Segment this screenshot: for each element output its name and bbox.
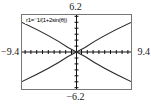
x-max-label: 9.4 [138,47,151,57]
x-min-label: −9.4 [1,47,19,57]
y-max-label: 6.2 [0,2,151,12]
graph-canvas [22,15,131,89]
equation-label: r1=⁻1/(1+2sin(θ)) [25,17,68,24]
y-min-label: −6.2 [0,92,151,102]
calculator-graph-screen: 6.2 −9.4 9.4 −6.2 [0,0,151,106]
plot-area[interactable]: r1=⁻1/(1+2sin(θ)) [21,14,132,90]
